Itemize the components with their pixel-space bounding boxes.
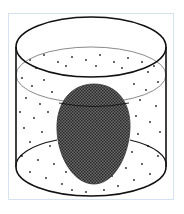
cylinder-egg-diagram: [0, 0, 184, 214]
egg: [57, 84, 130, 184]
container-base-back-right: [130, 140, 166, 167]
container-base-back: [16, 140, 57, 167]
